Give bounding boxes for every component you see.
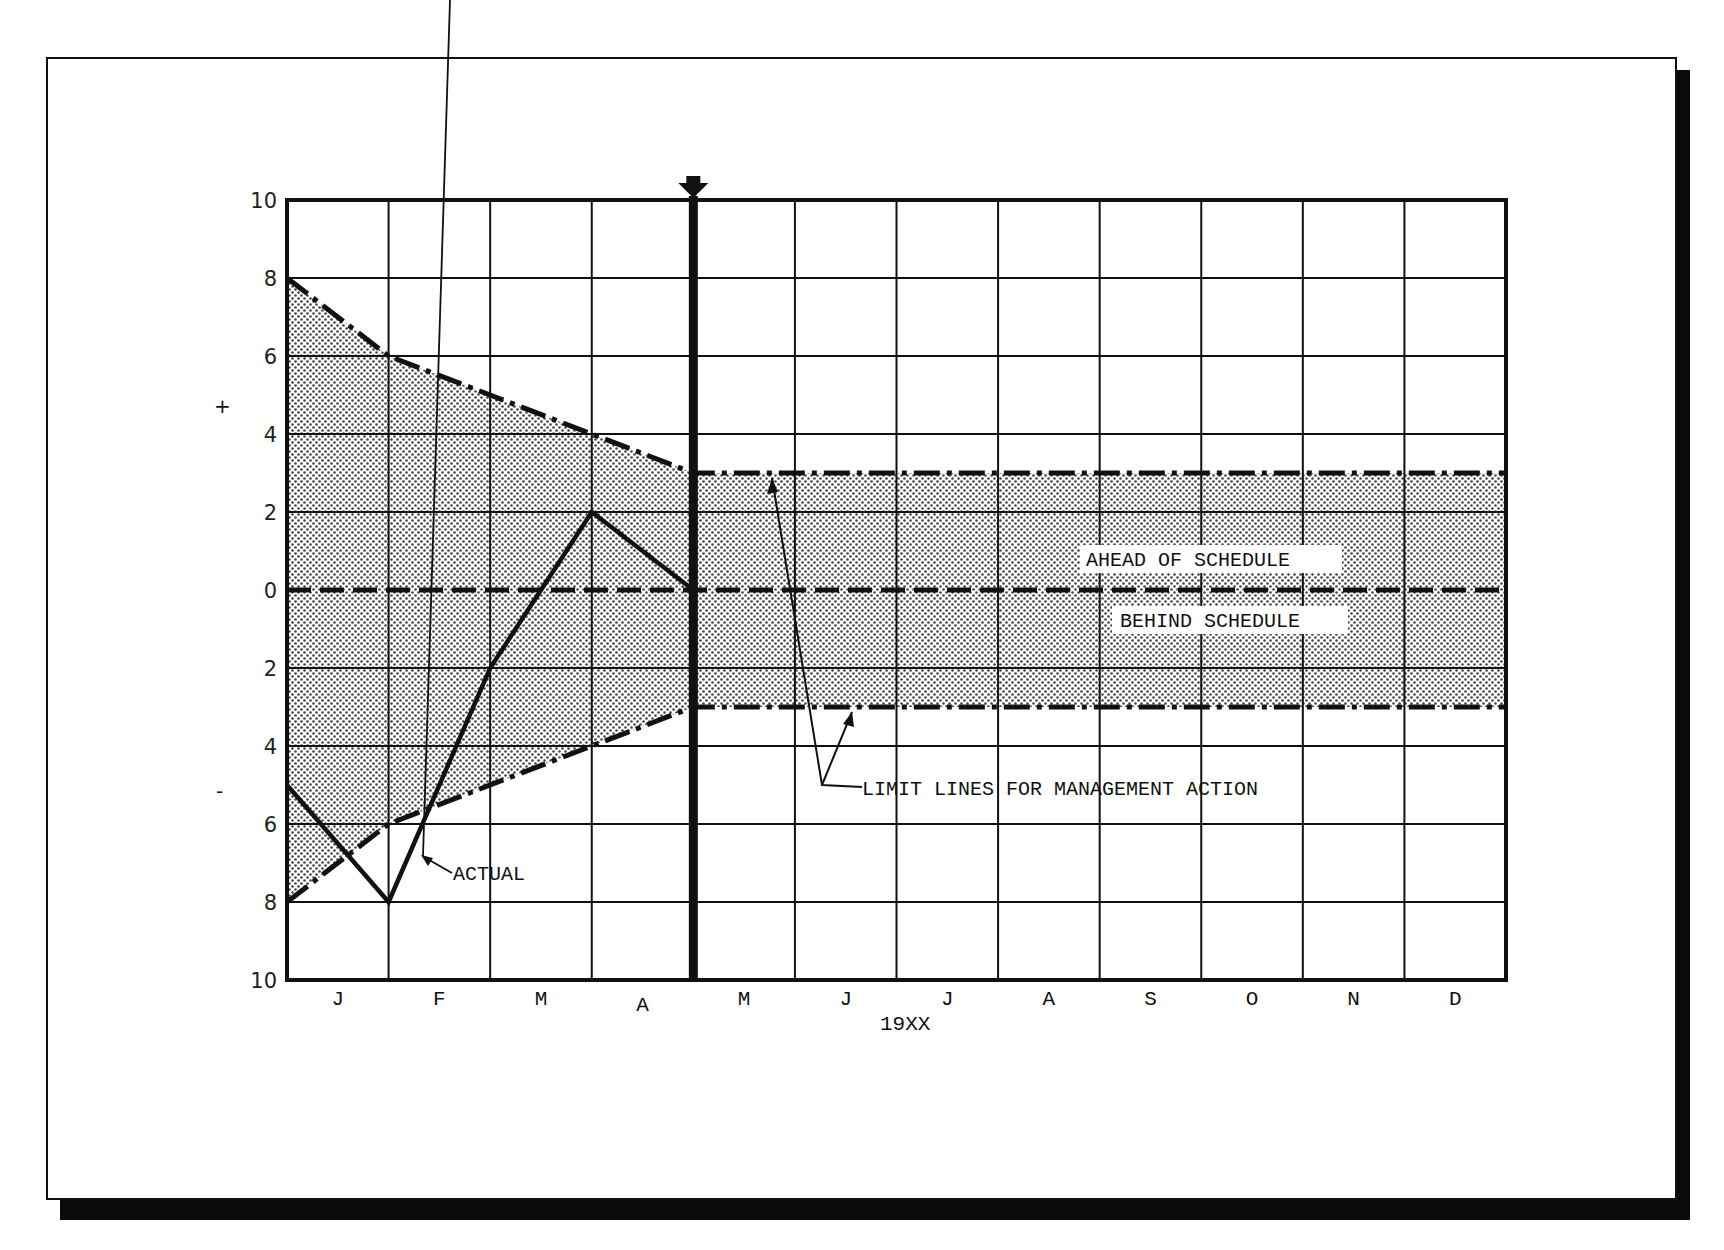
x-tick-label: N bbox=[1347, 988, 1360, 1011]
x-tick-label: J bbox=[839, 988, 852, 1011]
x-tick-label: S bbox=[1144, 988, 1157, 1011]
y-tick-label: 6 bbox=[264, 345, 277, 369]
y-tick-label: 8 bbox=[264, 891, 277, 915]
positive-sign-label: + bbox=[214, 394, 231, 418]
ahead-of-schedule-label: AHEAD OF SCHEDULE bbox=[1086, 549, 1290, 572]
schedule-control-chart: + - AHEAD OF SCHEDULE BEHIND SCHEDULE LI… bbox=[0, 0, 1724, 1250]
behind-schedule-label: BEHIND SCHEDULE bbox=[1120, 610, 1300, 633]
x-tick-label: M bbox=[535, 988, 548, 1011]
x-axis-year-label: 19XX bbox=[880, 1013, 931, 1036]
x-tick-label: J bbox=[941, 988, 954, 1011]
x-tick-label: A bbox=[636, 994, 649, 1017]
x-tick-label: A bbox=[1043, 988, 1056, 1011]
y-tick-label: 10 bbox=[250, 189, 277, 213]
y-tick-label: 6 bbox=[264, 813, 277, 837]
y-tick-label: 2 bbox=[264, 501, 277, 525]
current-date-arrow-stem bbox=[686, 176, 700, 184]
x-tick-label: O bbox=[1246, 988, 1259, 1011]
y-tick-label: 0 bbox=[264, 579, 277, 603]
x-tick-label: F bbox=[433, 988, 446, 1011]
x-tick-label: M bbox=[738, 988, 751, 1011]
y-tick-label: 10 bbox=[250, 969, 277, 993]
y-tick-label: 2 bbox=[264, 657, 277, 681]
y-tick-label: 8 bbox=[264, 267, 277, 291]
x-tick-label: D bbox=[1449, 988, 1462, 1011]
limit-lines-label: LIMIT LINES FOR MANAGEMENT ACTION bbox=[862, 778, 1258, 801]
current-date-arrow-icon bbox=[678, 183, 708, 198]
x-tick-label: J bbox=[331, 988, 344, 1011]
negative-sign-label: - bbox=[216, 779, 223, 803]
y-tick-label: 4 bbox=[264, 735, 277, 759]
actual-label: ACTUAL bbox=[453, 863, 525, 886]
y-tick-label: 4 bbox=[264, 423, 277, 447]
